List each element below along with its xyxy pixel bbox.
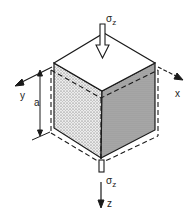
dimension-a-label: a [34, 98, 40, 108]
cube-drawing [0, 0, 192, 224]
sigma-top-label: σz [106, 14, 116, 24]
x-axis-arrow [158, 67, 183, 80]
z-axis-arrow [98, 182, 104, 208]
cube-stress-diagram: σz y a x σz z [0, 0, 192, 224]
sigma-bottom-label: σz [106, 176, 116, 186]
axis-x-label: x [175, 89, 180, 99]
axis-z-label: z [107, 199, 112, 209]
axis-y-label: y [20, 91, 25, 101]
y-axis-arrow [15, 67, 52, 86]
sigma-bottom-arrow [99, 160, 104, 172]
